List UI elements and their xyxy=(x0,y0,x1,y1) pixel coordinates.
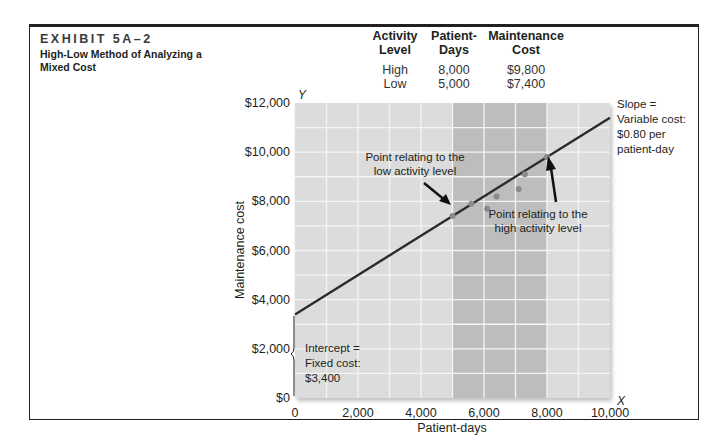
x-axis-letter: X xyxy=(616,394,626,408)
svg-text:patient-day: patient-day xyxy=(617,143,674,155)
svg-text:high activity level: high activity level xyxy=(495,222,582,234)
y-tick-label: $8,000 xyxy=(252,194,290,208)
svg-text:Fixed cost:: Fixed cost: xyxy=(305,357,361,369)
svg-text:Point relating to the: Point relating to the xyxy=(365,151,464,163)
chart: 02,0004,0006,0008,00010,000$0$2,000$4,00… xyxy=(0,0,725,440)
brace-icon xyxy=(291,316,294,396)
y-tick-label: $4,000 xyxy=(252,293,290,307)
y-axis-title: Maintenance cost xyxy=(233,200,247,299)
svg-text:Intercept =: Intercept = xyxy=(305,342,360,354)
y-tick-label: $12,000 xyxy=(245,96,290,110)
x-tick-label: 4,000 xyxy=(405,406,436,420)
svg-text:Variable cost:: Variable cost: xyxy=(617,113,686,125)
svg-text:Slope =: Slope = xyxy=(617,98,657,110)
y-tick-label: $6,000 xyxy=(252,244,290,258)
data-point xyxy=(522,171,528,177)
slope-annotation: Slope = Variable cost: $0.80 per patient… xyxy=(617,98,686,155)
svg-text:$3,400: $3,400 xyxy=(305,372,340,384)
svg-text:low activity level: low activity level xyxy=(374,165,456,177)
x-tick-label: 8,000 xyxy=(531,406,562,420)
y-tick-label: $10,000 xyxy=(245,145,290,159)
x-tick-label: 6,000 xyxy=(468,406,499,420)
y-tick-label: $0 xyxy=(276,391,290,405)
data-point xyxy=(468,201,474,207)
svg-text:Point relating to the: Point relating to the xyxy=(488,208,587,220)
x-tick-label: 2,000 xyxy=(342,406,373,420)
x-tick-label: 10,000 xyxy=(591,406,629,420)
y-tick-label: $2,000 xyxy=(252,342,290,356)
x-tick-label: 0 xyxy=(292,406,299,420)
data-point xyxy=(516,186,522,192)
data-point xyxy=(494,193,500,199)
x-axis-title: Patient-days xyxy=(417,421,486,435)
y-axis-letter: Y xyxy=(298,88,307,102)
svg-text:$0.80 per: $0.80 per xyxy=(617,128,666,140)
data-point xyxy=(450,213,456,219)
